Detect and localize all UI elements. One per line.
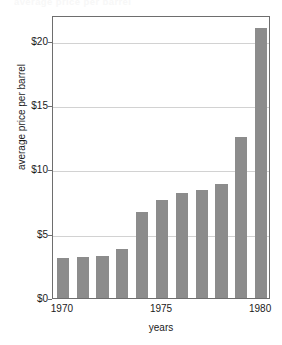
x-axis-title: years [52,322,270,333]
bar-1973 [116,249,128,298]
y-axis-title: average price per barrel [17,47,27,187]
bar-1976 [176,193,188,299]
bar-1977 [196,190,208,298]
bar-1974 [136,212,148,298]
bar-1975 [156,200,168,298]
plot-area [52,16,270,299]
bar-chart-figure: average price per barrel $0$5$10$15$20 a… [0,0,282,345]
chart-title: average price per barrel [14,0,244,8]
x-tick-label-1970: 1970 [51,303,73,314]
bar-1972 [96,256,108,298]
y-tick-mark-0 [48,299,52,300]
bar-1970 [57,258,69,298]
bar-1971 [77,257,89,298]
bar-1978 [215,184,227,299]
x-tick-label-1975: 1975 [150,303,172,314]
bar-1980 [255,28,267,298]
bar-1979 [235,137,247,298]
x-axis-tick-labels: 197019751980 [52,303,270,317]
bars-group [53,17,269,298]
x-tick-label-1980: 1980 [249,303,271,314]
